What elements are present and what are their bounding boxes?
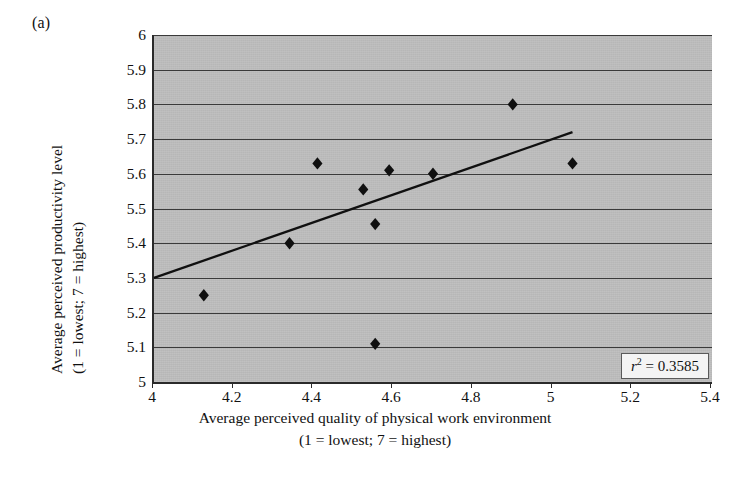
- y-tick-label: 6: [84, 26, 146, 44]
- y-tick-label: 5.3: [84, 269, 146, 287]
- data-point-group: [199, 98, 578, 350]
- data-point: [508, 98, 518, 110]
- data-point: [567, 157, 577, 169]
- x-tick-label: 4.4: [281, 388, 341, 406]
- data-point: [428, 168, 438, 180]
- x-tick-mark: [232, 382, 233, 388]
- x-tick-label: 5.4: [680, 388, 740, 406]
- y-tick-label: 5.7: [84, 130, 146, 148]
- data-point: [358, 183, 368, 195]
- x-tick-mark: [152, 382, 153, 388]
- y-tick-label: 5.1: [84, 338, 146, 356]
- y-tick-label: 5.9: [84, 61, 146, 79]
- x-tick-mark: [551, 382, 552, 388]
- x-tick-mark: [391, 382, 392, 388]
- plot-area: r2 = 0.3585: [152, 35, 712, 384]
- x-tick-mark: [311, 382, 312, 388]
- y-tick-label: 5.8: [84, 95, 146, 113]
- data-point: [199, 289, 209, 301]
- trend-line: [154, 132, 573, 278]
- data-point: [312, 157, 322, 169]
- x-tick-label: 4.2: [202, 388, 262, 406]
- x-tick-label: 5.2: [600, 388, 660, 406]
- x-tick-mark: [710, 382, 711, 388]
- data-point: [284, 237, 294, 249]
- r-squared-annotation: r2 = 0.3585: [621, 353, 709, 379]
- data-point: [370, 338, 380, 350]
- figure-panel-a: (a) Average perceived productivity level…: [0, 0, 750, 481]
- x-tick-label: 4.8: [441, 388, 501, 406]
- data-point: [370, 218, 380, 230]
- y-tick-label: 5.5: [84, 200, 146, 218]
- y-tick-label: 5.4: [84, 234, 146, 252]
- y-tick-label: 5.2: [84, 304, 146, 322]
- r-value-text: = 0.3585: [642, 358, 699, 374]
- data-layer: [154, 35, 712, 382]
- x-tick-label: 4.6: [361, 388, 421, 406]
- x-axis-title-line1: Average perceived quality of physical wo…: [0, 409, 750, 427]
- x-tick-mark: [471, 382, 472, 388]
- x-tick-label: 4: [122, 388, 182, 406]
- y-tick-label: 5.6: [84, 165, 146, 183]
- data-point: [384, 164, 394, 176]
- x-axis-title-line2: (1 = lowest; 7 = highest): [0, 431, 750, 449]
- x-tick-label: 5: [521, 388, 581, 406]
- x-tick-mark: [630, 382, 631, 388]
